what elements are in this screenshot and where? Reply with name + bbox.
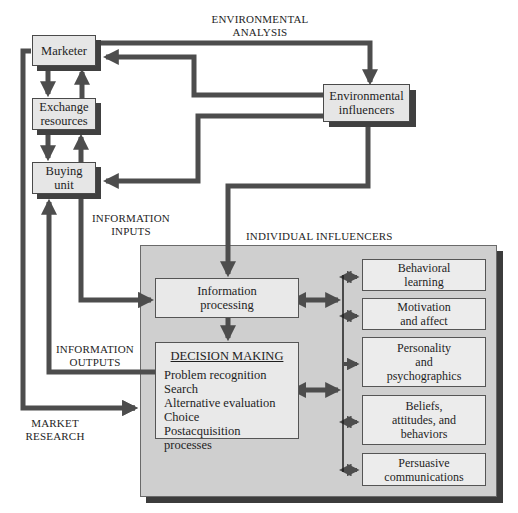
node-motivation-affect: Motivation and affect <box>362 298 486 330</box>
decision-item: Choice <box>164 410 199 424</box>
motivation-label-1: Motivation <box>397 300 450 314</box>
decision-item: Search <box>164 382 198 396</box>
beliefs-label-2: attitudes, and <box>392 413 456 427</box>
behavioral-label-2: learning <box>404 275 443 289</box>
beliefs-label-1: Beliefs, <box>406 399 443 413</box>
node-persuasive-communications: Persuasive communications <box>362 453 486 486</box>
node-personality-psychographics: Personality and psychographics <box>362 337 486 387</box>
decision-item: Postacquisition processes <box>164 424 290 452</box>
personality-label-2: and <box>415 355 432 369</box>
node-behavioral-learning: Behavioral learning <box>362 259 486 291</box>
personality-label-1: Personality <box>397 341 451 355</box>
decision-making-title: DECISION MAKING <box>164 349 290 363</box>
persuasive-label-1: Persuasive <box>398 456 449 470</box>
node-beliefs-attitudes: Beliefs, attitudes, and behaviors <box>362 395 486 445</box>
node-infoproc-label-2: processing <box>200 298 253 312</box>
decision-item: Problem recognition <box>164 368 266 382</box>
node-decision-making: DECISION MAKING Problem recognition Sear… <box>155 342 299 439</box>
decision-item: Alternative evaluation <box>164 396 275 410</box>
motivation-label-2: and affect <box>400 314 447 328</box>
personality-label-3: psychographics <box>387 369 462 383</box>
behavioral-label-1: Behavioral <box>398 261 451 275</box>
node-information-processing: Information processing <box>155 278 299 318</box>
beliefs-label-3: behaviors <box>401 427 448 441</box>
node-infoproc-label-1: Information <box>197 284 257 298</box>
persuasive-label-2: communications <box>384 470 463 484</box>
